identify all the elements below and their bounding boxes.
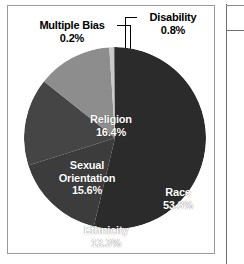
slice-label-religion: Religion 16.4% bbox=[73, 113, 149, 138]
slice-label-sexual-orientation: Sexual Orientation 15.6% bbox=[46, 159, 128, 197]
slice-label-race-pct: 53.8% bbox=[142, 199, 214, 212]
frame-horizontal-rule-middle bbox=[226, 30, 244, 31]
pie-graphic: Race 53.8% Religion 16.4% Sexual Orienta… bbox=[24, 47, 206, 229]
chart-panel: Multiple Bias 0.2% Disability 0.8% Race … bbox=[7, 5, 215, 254]
slice-label-sexual-orientation-pct: 15.6% bbox=[46, 184, 128, 197]
slice-label-sexual-orientation-line2: Orientation bbox=[59, 172, 115, 184]
callout-label-disability: Disability 0.8% bbox=[132, 11, 214, 37]
callout-label-disability-pct: 0.8% bbox=[161, 24, 185, 36]
slice-label-religion-name: Religion bbox=[90, 113, 132, 125]
callout-label-disability-name: Disability bbox=[150, 11, 197, 23]
slice-label-ethnicity-pct: 13.3% bbox=[68, 237, 144, 250]
slice-label-race: Race 53.8% bbox=[142, 186, 214, 211]
callout-label-multiple-bias: Multiple Bias 0.2% bbox=[26, 19, 118, 45]
leader-line-multiple-bias-horizontal bbox=[117, 25, 131, 26]
callout-label-multiple-bias-name: Multiple Bias bbox=[39, 19, 104, 31]
slice-label-ethnicity-name: Ethnicity bbox=[84, 224, 129, 236]
leader-line-disability-horizontal bbox=[125, 17, 137, 18]
slice-label-race-name: Race bbox=[165, 186, 191, 198]
slice-label-sexual-orientation-line1: Sexual bbox=[70, 159, 104, 171]
frame-horizontal-rule-top bbox=[226, 5, 244, 6]
callout-label-multiple-bias-pct: 0.2% bbox=[60, 32, 84, 44]
slice-label-religion-pct: 16.4% bbox=[73, 126, 149, 139]
slice-label-ethnicity: Ethnicity 13.3% bbox=[68, 224, 144, 249]
frame-vertical-rule bbox=[226, 4, 227, 264]
pie-chart-figure: Multiple Bias 0.2% Disability 0.8% Race … bbox=[0, 0, 244, 264]
